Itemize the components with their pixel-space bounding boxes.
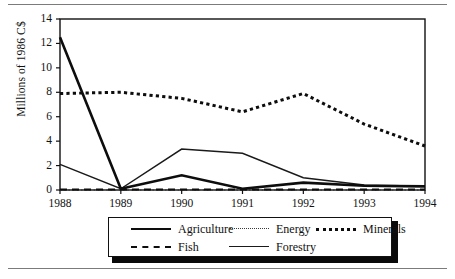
y-tick-label: 10 <box>26 62 52 74</box>
legend-item-fish: Fish <box>129 238 199 256</box>
legend-label-fish: Fish <box>178 240 199 254</box>
legend-label-agriculture: Agriculture <box>178 222 233 236</box>
y-tick-label: 12 <box>26 37 52 49</box>
line-chart-svg <box>0 0 455 215</box>
bottom-divider-rule <box>8 268 447 269</box>
legend-swatch-agriculture-icon <box>129 222 173 236</box>
legend-row: Agriculture Energy Minerals <box>109 220 391 238</box>
legend-swatch-fish-icon <box>129 240 173 254</box>
legend-label-forestry: Forestry <box>276 240 316 254</box>
legend-item-energy: Energy <box>227 220 310 238</box>
legend-item-forestry: Forestry <box>227 238 316 256</box>
y-tick-label: 8 <box>26 86 52 98</box>
legend-swatch-energy-icon <box>227 222 271 236</box>
figure: Millions of 1986 C$ 02468101214 19881989… <box>0 0 455 279</box>
y-tick-label: 6 <box>26 111 52 123</box>
plot-area: 02468101214 1988198919901991199219931994 <box>0 0 455 215</box>
series-line-agriculture <box>60 37 425 188</box>
legend-swatch-minerals-icon <box>314 222 358 236</box>
x-tick-label: 1993 <box>342 198 386 210</box>
legend-item-agriculture: Agriculture <box>129 220 233 238</box>
y-tick-label: 4 <box>26 135 52 147</box>
y-tick-label: 2 <box>26 160 52 172</box>
x-tick-label: 1994 <box>403 198 447 210</box>
legend-row: Fish Forestry <box>109 238 391 256</box>
series-line-minerals <box>60 92 425 146</box>
legend-label-minerals: Minerals <box>363 222 406 236</box>
legend-swatch-forestry-icon <box>227 240 271 254</box>
y-tick-label: 0 <box>26 184 52 196</box>
x-tick-label: 1992 <box>281 198 325 210</box>
y-tick-label: 14 <box>26 13 52 25</box>
x-tick-label: 1989 <box>99 198 143 210</box>
axes-frame <box>60 19 425 190</box>
chart-legend: Agriculture Energy Minerals Fish Forestr… <box>108 217 392 257</box>
legend-label-energy: Energy <box>276 222 310 236</box>
legend-item-minerals: Minerals <box>314 220 406 238</box>
x-tick-label: 1988 <box>38 198 82 210</box>
x-tick-label: 1991 <box>221 198 265 210</box>
series-line-forestry <box>60 149 425 189</box>
data-series-layer <box>60 37 425 190</box>
x-tick-label: 1990 <box>160 198 204 210</box>
